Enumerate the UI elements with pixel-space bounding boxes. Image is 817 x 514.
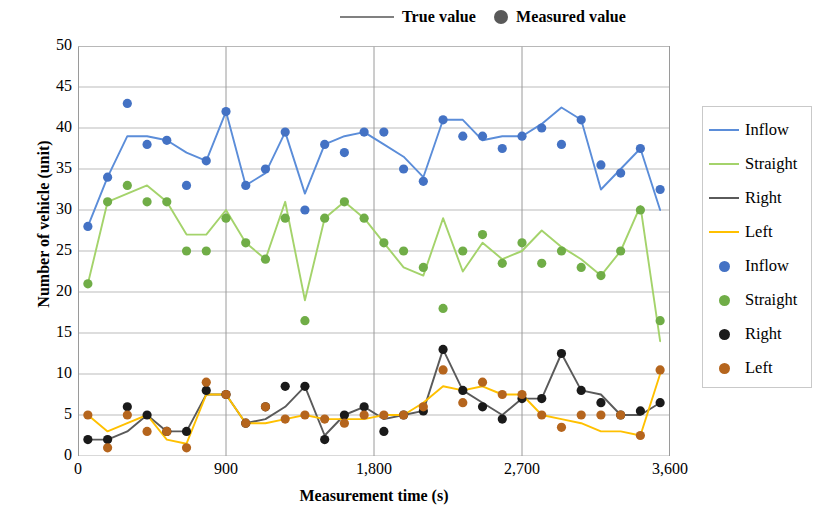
data-point	[340, 410, 349, 419]
data-point	[261, 164, 270, 173]
legend-label-true-value: True value	[402, 8, 476, 26]
data-point	[360, 402, 369, 411]
y-tick-label: 15	[36, 324, 72, 340]
data-point	[241, 181, 250, 190]
y-tick-label: 0	[36, 447, 72, 463]
y-tick-label: 5	[36, 406, 72, 422]
data-point	[577, 263, 586, 272]
data-point	[498, 415, 507, 424]
data-point	[498, 144, 507, 153]
line-swatch-icon	[709, 129, 739, 131]
legend-row-line-inflow[interactable]: Inflow	[709, 113, 807, 147]
dot-swatch-icon	[719, 261, 730, 272]
data-point	[142, 410, 151, 419]
legend-row-marker-inflow[interactable]: Inflow	[709, 249, 807, 283]
data-point	[300, 205, 309, 214]
data-point	[517, 390, 526, 399]
y-tick-label: 50	[36, 37, 72, 53]
data-point	[577, 386, 586, 395]
x-tick-label: 2,700	[504, 460, 540, 478]
dot-swatch-icon	[719, 363, 730, 374]
data-point	[241, 419, 250, 428]
data-point	[399, 164, 408, 173]
legend-label: Left	[745, 358, 772, 378]
data-point	[399, 410, 408, 419]
data-point	[379, 128, 388, 137]
legend-row-line-left[interactable]: Left	[709, 215, 807, 249]
data-point	[123, 99, 132, 108]
data-point	[142, 140, 151, 149]
x-tick-label: 900	[214, 460, 238, 478]
legend-row-line-straight[interactable]: Straight	[709, 147, 807, 181]
data-point	[340, 197, 349, 206]
data-point	[300, 316, 309, 325]
data-point	[379, 410, 388, 419]
data-point	[399, 246, 408, 255]
data-point	[438, 345, 447, 354]
x-tick-label: 1,800	[356, 460, 392, 478]
legend-row-marker-left[interactable]: Left	[709, 351, 807, 385]
y-axis-tick-labels: 05101520253035404550	[30, 46, 72, 456]
x-tick-label: 0	[74, 460, 82, 478]
data-point	[656, 185, 665, 194]
legend-row-marker-right[interactable]: Right	[709, 317, 807, 351]
data-point	[182, 246, 191, 255]
data-point	[498, 390, 507, 399]
data-point	[83, 222, 92, 231]
legend-label: Straight	[745, 290, 797, 310]
legend-row-line-right[interactable]: Right	[709, 181, 807, 215]
data-point	[281, 415, 290, 424]
data-point	[656, 398, 665, 407]
chart-svg	[78, 46, 670, 456]
x-axis-tick-labels: 09001,8002,7003,600	[78, 460, 670, 484]
data-point	[616, 410, 625, 419]
legend-label-measured-value: Measured value	[516, 8, 626, 26]
data-point	[379, 427, 388, 436]
y-tick-label: 35	[36, 160, 72, 176]
data-point	[103, 173, 112, 182]
legend-row-marker-straight[interactable]: Straight	[709, 283, 807, 317]
data-point	[616, 169, 625, 178]
data-point	[162, 427, 171, 436]
data-point	[419, 263, 428, 272]
data-point	[478, 230, 487, 239]
data-point	[103, 435, 112, 444]
data-point	[182, 443, 191, 452]
data-point	[103, 197, 112, 206]
legend-label: Right	[745, 324, 782, 344]
y-tick-label: 30	[36, 201, 72, 217]
data-point	[83, 279, 92, 288]
line-swatch-icon	[340, 16, 394, 18]
data-point	[261, 402, 270, 411]
chart-figure: True value Measured value Number of vehi…	[0, 0, 817, 514]
data-point	[241, 238, 250, 247]
data-point	[438, 365, 447, 374]
y-tick-label: 20	[36, 283, 72, 299]
data-point	[458, 398, 467, 407]
data-point	[438, 304, 447, 313]
dot-swatch-icon	[719, 329, 730, 340]
data-point	[162, 197, 171, 206]
data-point	[419, 177, 428, 186]
series-legend: InflowStraightRightLeftInflowStraightRig…	[702, 106, 812, 388]
data-point	[557, 423, 566, 432]
data-point	[320, 140, 329, 149]
x-tick-label: 3,600	[652, 460, 688, 478]
y-tick-label: 10	[36, 365, 72, 381]
data-point	[320, 435, 329, 444]
data-point	[537, 394, 546, 403]
data-point	[320, 415, 329, 424]
data-point	[656, 316, 665, 325]
data-point	[162, 136, 171, 145]
data-point	[360, 410, 369, 419]
true-measured-legend: True value Measured value	[340, 4, 720, 30]
data-point	[202, 156, 211, 165]
data-point	[478, 402, 487, 411]
marker-swatch-wrapper	[709, 329, 739, 340]
legend-label: Straight	[745, 154, 797, 174]
data-point	[340, 419, 349, 428]
data-point	[596, 160, 605, 169]
legend-label: Right	[745, 188, 782, 208]
data-point	[202, 378, 211, 387]
data-point	[320, 214, 329, 223]
